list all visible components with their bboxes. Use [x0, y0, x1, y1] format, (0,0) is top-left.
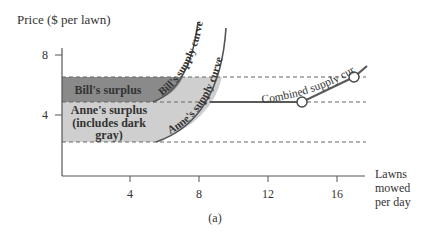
- supply-curve-chart: 8 4 4 8 12 16 Price ($ per lawn) Lawns m…: [0, 0, 433, 233]
- y-tick-label-4: 4: [42, 108, 48, 122]
- x-tick-label-8: 8: [196, 187, 202, 201]
- x-tick-label-4: 4: [127, 187, 133, 201]
- x-tick-label-12: 12: [262, 187, 274, 201]
- x-axis-label-line1: Lawns: [375, 167, 407, 181]
- y-tick-label-8: 8: [42, 48, 48, 62]
- bill-surplus-label: Bill's surplus: [74, 83, 141, 97]
- combined-kink-marker-1: [297, 97, 307, 107]
- x-axis-label-line3: per day: [375, 195, 411, 209]
- x-tick-label-16: 16: [331, 187, 343, 201]
- anne-surplus-label-1: Anne's surplus: [71, 103, 148, 117]
- x-axis-label-line2: mowed: [375, 181, 410, 195]
- panel-label: (a): [208, 211, 221, 225]
- y-axis-label: Price ($ per lawn): [17, 12, 111, 27]
- anne-surplus-label-3: gray): [95, 128, 122, 142]
